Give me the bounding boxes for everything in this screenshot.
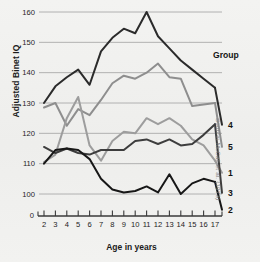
x-tick-label: 14: [177, 220, 185, 229]
legend-label-group-3: 3: [228, 188, 233, 198]
y-tick-label: 140: [22, 68, 35, 77]
y-tick-label: 120: [22, 129, 35, 138]
x-tick-label: 16: [199, 220, 207, 229]
x-tick-label: 3: [53, 220, 57, 229]
x-tick-label: 11: [143, 220, 151, 229]
y-tick-label: 110: [23, 159, 35, 168]
legend-label-group-2: 2: [228, 205, 233, 215]
x-tick-label: 2: [42, 220, 46, 229]
x-tick-label: 12: [154, 220, 162, 229]
y-tick-label: 100: [22, 190, 35, 199]
x-tick-label: 5: [76, 220, 80, 229]
x-tick-label: 15: [188, 220, 196, 229]
legend-title: Group: [213, 50, 239, 60]
legend-labels: 45132: [228, 120, 233, 215]
y-axis-title: Adjusted Binet IQ: [11, 33, 21, 129]
axis-origin-label: 0: [30, 211, 34, 220]
y-tick-label: 130: [22, 99, 35, 108]
y-tick-label: 150: [22, 38, 35, 47]
series-line-group-2: [44, 149, 215, 195]
series-line-group-4: [44, 12, 215, 103]
gridlines: [39, 12, 222, 194]
x-tick-label: 8: [110, 220, 114, 229]
source-credit: Source: McCall et al. (1973): [215, 118, 222, 234]
x-tick-label: 4: [65, 220, 69, 229]
series-line-group-3: [44, 124, 215, 154]
x-tick-label: 9: [122, 220, 126, 229]
x-tick-label: 13: [165, 220, 173, 229]
x-axis: 0: [30, 211, 222, 221]
chart-figure: 100110120130140150160 0 2345678910111213…: [0, 0, 260, 262]
y-tick-label: 160: [22, 8, 35, 17]
x-axis-tick-labels: 234567891011121314151617: [42, 220, 219, 229]
x-tick-label: 10: [131, 220, 139, 229]
x-axis-title: Age in years: [44, 242, 219, 252]
series-line-group-1: [44, 97, 215, 162]
legend-label-group-5: 5: [228, 142, 233, 152]
x-tick-label: 6: [87, 220, 91, 229]
legend-label-group-1: 1: [228, 168, 233, 178]
legend-label-group-4: 4: [228, 120, 233, 130]
x-tick-label: 7: [99, 220, 103, 229]
y-axis-tick-labels: 100110120130140150160: [22, 8, 35, 199]
